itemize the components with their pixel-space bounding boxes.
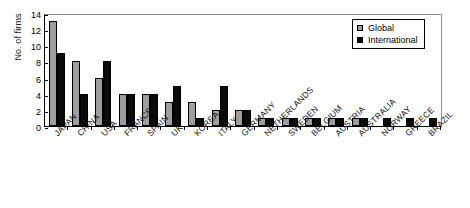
y-axis-tick: 6 [36, 75, 45, 85]
y-axis-tick: 4 [36, 91, 45, 101]
bar-group [161, 15, 184, 126]
legend-swatch-international-icon [357, 37, 363, 43]
legend-swatch-global-icon [357, 25, 363, 31]
bar-uk-international [173, 86, 181, 126]
bar-usa-international [103, 61, 111, 126]
y-axis-tick: 12 [31, 26, 45, 36]
legend-label-global: Global [368, 23, 394, 33]
y-axis-tick: 14 [31, 10, 45, 20]
bar-group [115, 15, 138, 126]
bar-group [185, 15, 208, 126]
y-axis-tick: 10 [31, 42, 45, 52]
bar-chart: No. of firms 02468101214 JAPANCHINAUSAFR… [0, 0, 470, 208]
y-axis-title: No. of firms [13, 0, 23, 85]
legend-item-global: Global [357, 23, 418, 33]
bar-group [231, 15, 254, 126]
bar-group [92, 15, 115, 126]
bar-group [68, 15, 91, 126]
bar-france-global [119, 94, 127, 126]
bar-korea-global [188, 102, 196, 126]
legend: Global International [352, 19, 425, 49]
bar-group [45, 15, 68, 126]
bar-group [208, 15, 231, 126]
bar-japan-global [49, 21, 57, 126]
x-axis-labels: JAPANCHINAUSAFRANCESPAINUKKOREAITALYGERM… [44, 131, 442, 207]
y-axis-tick: 8 [36, 58, 45, 68]
legend-label-international: International [368, 35, 418, 45]
bar-japan-international [57, 53, 65, 126]
legend-item-international: International [357, 35, 418, 45]
y-axis-tick: 2 [36, 107, 45, 117]
